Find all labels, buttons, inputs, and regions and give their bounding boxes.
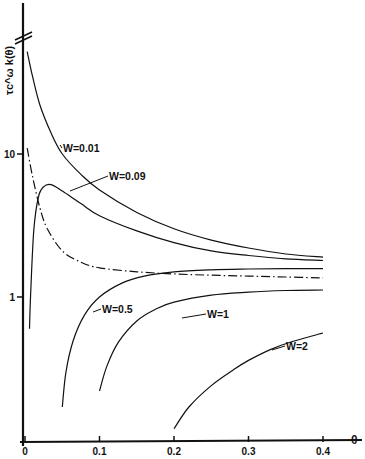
x-tick-label: 0.3: [242, 446, 256, 457]
axes: [15, 3, 362, 446]
chart: 00.10.20.30.4110 W=0.01W=0.09W=0.5W=1W=2…: [0, 0, 365, 459]
x-tick-label: 0.1: [93, 446, 107, 457]
y-axis-label: τc^ω k(θ): [3, 45, 15, 95]
x-tick-label: 0: [22, 446, 28, 457]
curve-label: W=1: [207, 308, 229, 320]
curve-w-0-01: [27, 52, 323, 258]
curve-label: W=2: [286, 340, 308, 352]
leader-line: [70, 176, 108, 191]
y-tick-label: 10: [4, 149, 16, 160]
x-tick-label: 0.2: [167, 446, 181, 457]
curve-labels: W=0.01W=0.09W=0.5W=1W=2: [60, 142, 308, 352]
x-tick-label: 0.4: [316, 446, 330, 457]
curve-label: W=0.5: [102, 303, 133, 315]
curve-label: W=0.09: [109, 170, 146, 182]
ticks: 00.10.20.30.4110: [4, 149, 331, 457]
y-tick-label: 1: [9, 292, 15, 303]
curves: [27, 52, 323, 429]
x-axis-label: θ: [351, 433, 358, 447]
leader-line: [93, 309, 101, 312]
x-axis: [20, 440, 362, 442]
curve-label: W=0.01: [63, 142, 100, 154]
curve-w-0-09: [30, 184, 324, 328]
leader-line: [182, 314, 206, 318]
leader-line: [60, 145, 62, 148]
curve-w-0-5: [62, 269, 323, 407]
